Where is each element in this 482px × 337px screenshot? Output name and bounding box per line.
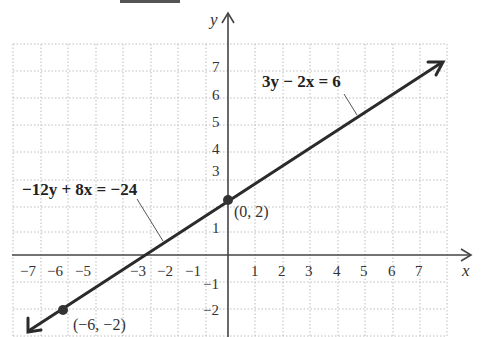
svg-text:1: 1 [251, 263, 259, 279]
equation-label-2: −12y + 8x = −24 [22, 180, 138, 199]
svg-text:−7: −7 [20, 263, 36, 279]
svg-text:4: 4 [212, 141, 220, 157]
point-neg6-neg2 [58, 305, 68, 315]
line-graph: x y −7 −6 −5 −3 −2 −1 1 2 3 4 5 6 7 7 6 … [0, 0, 482, 337]
svg-text:−1: −1 [203, 276, 219, 292]
svg-text:3: 3 [212, 163, 220, 179]
svg-text:5: 5 [212, 114, 220, 130]
leader-line-2 [137, 199, 163, 241]
svg-text:6: 6 [388, 263, 396, 279]
svg-text:2: 2 [278, 263, 286, 279]
cropped-header-fragment [120, 0, 180, 3]
axes [12, 13, 471, 337]
svg-text:3: 3 [305, 263, 313, 279]
svg-text:6: 6 [212, 87, 220, 103]
svg-text:−2: −2 [203, 302, 219, 318]
svg-text:5: 5 [360, 263, 368, 279]
svg-text:−2: −2 [157, 263, 173, 279]
point-0-2 [223, 195, 233, 205]
svg-text:−1: −1 [185, 263, 201, 279]
equation-label-1: 3y − 2x = 6 [262, 72, 341, 91]
x-axis-label: x [461, 261, 470, 280]
svg-text:−3: −3 [130, 263, 146, 279]
point-label-neg6-neg2: (−6, −2) [73, 316, 126, 334]
svg-text:1: 1 [212, 220, 220, 236]
svg-text:4: 4 [333, 263, 341, 279]
svg-text:7: 7 [212, 59, 220, 75]
svg-text:−5: −5 [75, 263, 91, 279]
svg-text:−6: −6 [47, 263, 63, 279]
y-axis-label: y [208, 10, 218, 29]
x-tick-labels: −7 −6 −5 −3 −2 −1 1 2 3 4 5 6 7 [20, 263, 423, 279]
svg-text:7: 7 [415, 263, 423, 279]
leader-line-1 [344, 94, 357, 115]
point-label-0-2: (0, 2) [234, 203, 269, 221]
